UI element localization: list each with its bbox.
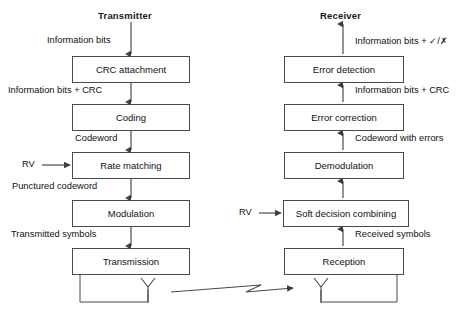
tx-antenna-icon [141,278,155,303]
block-crc-attachment[interactable]: CRC attachment [72,56,190,83]
block-rate-matching[interactable]: Rate matching [72,152,190,179]
edge-label-information-bits-check: Information bits + ✓/✗ [355,35,448,46]
block-error-detection[interactable]: Error detection [284,56,404,83]
edge-label-codeword: Codeword [75,133,117,143]
wireless-link-icon [171,285,293,292]
block-coding[interactable]: Coding [72,104,190,131]
block-modulation[interactable]: Modulation [72,200,190,227]
block-error-correction[interactable]: Error correction [284,104,404,131]
block-reception[interactable]: Reception [284,248,404,275]
block-demodulation[interactable]: Demodulation [284,152,404,179]
edge-label-information-bits: Information bits [47,35,111,45]
receiver-title: Receiver [320,10,361,21]
rx-antenna-icon [314,278,328,303]
block-soft-decision-combining[interactable]: Soft decision combining [283,200,409,227]
edge-label-received-symbols: Received symbols [355,229,430,239]
line-antenna-to-reception [321,275,397,302]
block-transmission[interactable]: Transmission [72,248,190,275]
flowchart-diagram: Transmitter Receiver CRC attachment Codi… [0,0,473,320]
edge-label-information-bits-crc-tx: Information bits + CRC [8,85,102,95]
edge-label-punctured-codeword: Punctured codeword [12,181,97,191]
rv-label-receiver: RV [239,207,252,217]
line-transmission-to-antenna [80,275,148,302]
edge-label-codeword-with-errors: Codeword with errors [355,133,443,143]
rv-label-transmitter: RV [22,159,35,169]
edge-label-transmitted-symbols: Transmitted symbols [11,229,96,239]
transmitter-title: Transmitter [98,10,152,21]
edge-label-information-bits-crc-rx: Information bits + CRC [355,85,449,95]
